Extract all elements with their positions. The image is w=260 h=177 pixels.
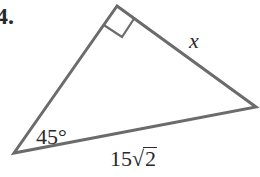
hypotenuse-coefficient: 15 xyxy=(110,146,132,171)
problem-number: 4. xyxy=(0,4,14,28)
hypotenuse-label: 15√2 xyxy=(110,147,157,170)
radicand: 2 xyxy=(143,147,157,170)
leg-label-x: x xyxy=(189,30,199,52)
right-angle-marker xyxy=(105,18,135,37)
square-root: √2 xyxy=(132,147,157,170)
diagram: 4. x 45° 15√2 xyxy=(0,0,260,177)
angle-label: 45° xyxy=(36,126,67,148)
